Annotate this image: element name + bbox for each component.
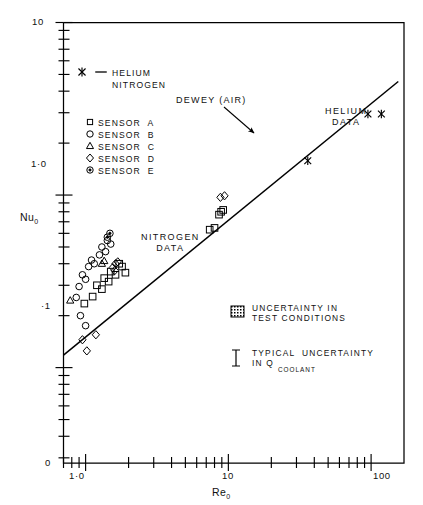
- data-point-sensor-a: [99, 286, 106, 293]
- data-point-sensor-a: [81, 300, 88, 307]
- data-point-sensor-d: [83, 347, 90, 355]
- data-point-sensor-b: [82, 276, 89, 283]
- data-point-sensor-b: [99, 244, 106, 251]
- y-tick-label-0-1: ·1: [41, 300, 51, 311]
- uncertainty-qcoolant-ibar: [232, 350, 240, 366]
- legend-label-helium: HELIUM: [112, 68, 151, 78]
- x-tick-label-100: 100: [373, 470, 391, 481]
- legend-marker-sensor-a: [87, 119, 92, 124]
- annotation-qcoolant-subscript: COOLANT: [278, 366, 316, 373]
- y-tick-label-10: 10: [32, 16, 44, 27]
- legend-label-sensor-e: SENSOR E: [98, 166, 155, 176]
- data-point-sensor-b: [77, 312, 84, 319]
- annotation-uncertainty-test-conditions: UNCERTAINTY INTEST CONDITIONS: [252, 303, 346, 323]
- data-point-helium: [304, 157, 311, 166]
- legend-label-sensor-a: SENSOR A: [98, 118, 154, 128]
- data-point-sensor-a: [94, 282, 101, 289]
- x-tick-label-1: 1·0: [69, 470, 85, 481]
- figure-nusselt-vs-reynolds: 10 1·0 ·1 0 1·0 10 100 Nu0 Re0 HELIUM NI…: [0, 0, 423, 505]
- annotation-typical-uncertainty: TYPICAL UNCERTAINTYIN Q: [252, 348, 374, 368]
- data-point-sensor-b: [96, 252, 103, 259]
- data-point-sensor-a: [89, 293, 96, 300]
- x-tick-label-10: 10: [222, 470, 234, 481]
- legend-label-nitrogen: NITROGEN: [112, 80, 166, 90]
- legend-label-sensor-b: SENSOR B: [98, 130, 155, 140]
- data-point-sensor-a: [220, 207, 227, 214]
- annotation-dewey-air: DEWEY (AIR): [176, 95, 247, 106]
- annotation-helium-data: HELIUMDATA: [325, 106, 367, 128]
- data-point-sensor-b: [79, 272, 86, 279]
- x-axis-title-base: Re: [212, 486, 226, 498]
- y-axis-title-sub: 0: [34, 218, 38, 225]
- uncertainty-test-conditions-swatch: [231, 306, 244, 317]
- y-axis-title-base: Nu: [20, 211, 34, 223]
- x-axis-title-sub: 0: [226, 493, 230, 500]
- y-axis-title: Nu0: [20, 211, 39, 223]
- data-point-sensor-d: [221, 192, 228, 200]
- data-point-sensor-b: [76, 283, 83, 290]
- data-point-sensor-a: [206, 226, 213, 233]
- y-tick-label-0: 0: [45, 457, 51, 468]
- legend-marker-sensor-d: [86, 154, 93, 162]
- legend-marker-sensor-e: [87, 167, 93, 173]
- legend-marker-sensor-c: [86, 142, 93, 148]
- y-tick-label-1: 1·0: [31, 158, 47, 169]
- x-axis-title: Re0: [212, 486, 231, 498]
- dewey-annotation-arrow: [224, 107, 254, 133]
- legend-marker-sensor-b: [87, 131, 93, 137]
- legend-marker-helium: [78, 68, 85, 77]
- data-point-sensor-b: [82, 322, 89, 329]
- data-point-sensor-d: [217, 193, 224, 201]
- legend-label-sensor-c: SENSOR C: [98, 142, 155, 152]
- data-point-sensor-b: [102, 248, 109, 255]
- legend-label-sensor-d: SENSOR D: [98, 154, 155, 164]
- data-point-sensor-d: [92, 331, 99, 339]
- data-point-helium: [378, 110, 385, 119]
- plot-canvas: [0, 0, 423, 505]
- annotation-nitrogen-data: NITROGENDATA: [141, 232, 200, 254]
- data-point-sensor-b: [73, 294, 80, 301]
